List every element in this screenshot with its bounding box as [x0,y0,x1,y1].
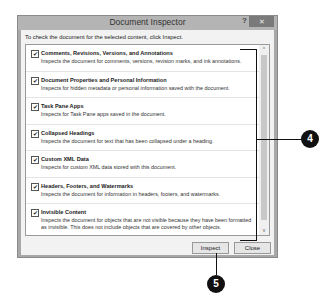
callout-badge-4: 4 [301,130,319,148]
list-item: ✔ Document Properties and Personal Infor… [26,72,259,99]
close-icon[interactable]: ✕ [249,16,274,27]
checkbox[interactable]: ✔ [31,156,39,164]
callout-line-4 [257,139,302,140]
help-icon[interactable]: ? [242,16,247,25]
item-title: Comments, Revisions, Versions, and Annot… [41,50,173,56]
scroll-down-icon[interactable]: v [259,226,269,235]
item-title: Headers, Footers, and Watermarks [41,183,133,189]
scroll-up-icon[interactable]: ^ [259,45,269,54]
item-description: Inspects for Task Pane apps saved in the… [41,111,255,118]
instruction-text: To check the document for the selected c… [25,34,183,40]
dialog-body: To check the document for the selected c… [21,30,274,255]
title-bar: Document Inspector ? ✕ [18,16,277,30]
callout-line-5 [216,253,217,275]
callout-bracket-top [240,49,257,50]
dialog-title: Document Inspector [18,17,277,27]
checkbox[interactable]: ✔ [31,130,39,138]
list-item: ✔ Headers, Footers, and Watermarks Inspe… [26,178,259,205]
callout-bracket-vertical [256,49,257,241]
item-title: Collapsed Headings [41,130,94,136]
list-item: ✔ Collapsed Headings Inspects the docume… [26,125,259,152]
item-description: Inspects the document for text that has … [41,138,255,145]
vertical-scrollbar[interactable]: ^ v [259,45,269,235]
item-title: Document Properties and Personal Informa… [41,77,167,83]
callout-badge-5: 5 [207,275,225,293]
inspect-button[interactable]: Inspect [192,242,229,254]
list-item: ✔ Invisible Content Inspects the documen… [26,204,259,235]
inspection-list: ✔ Comments, Revisions, Versions, and Ann… [25,44,270,236]
close-button[interactable]: Close [234,242,271,254]
checkbox[interactable]: ✔ [31,77,39,85]
item-description: Inspects the document for information in… [41,191,255,198]
checkbox[interactable]: ✔ [31,50,39,58]
list-item: ✔ Task Pane Apps Inspects for Task Pane … [26,98,259,125]
list-item: ✔ Comments, Revisions, Versions, and Ann… [26,45,259,72]
item-description: Inspects the document for comments, vers… [41,58,255,65]
item-description: Inspects for custom XML data stored with… [41,164,255,171]
item-description: Inspects the document for objects that a… [41,217,255,231]
checkbox[interactable]: ✔ [31,183,39,191]
scrollbar-thumb[interactable] [261,55,267,220]
document-inspector-dialog: Document Inspector ? ✕ To check the docu… [17,15,278,258]
checkbox[interactable]: ✔ [31,209,39,217]
list-item: ✔ Custom XML Data Inspects for custom XM… [26,151,259,178]
item-description: Inspects for hidden metadata or personal… [41,85,255,92]
item-title: Task Pane Apps [41,103,84,109]
checkbox[interactable]: ✔ [31,103,39,111]
item-title: Custom XML Data [41,156,89,162]
callout-bracket-bottom [240,240,257,241]
item-title: Invisible Content [41,209,86,215]
